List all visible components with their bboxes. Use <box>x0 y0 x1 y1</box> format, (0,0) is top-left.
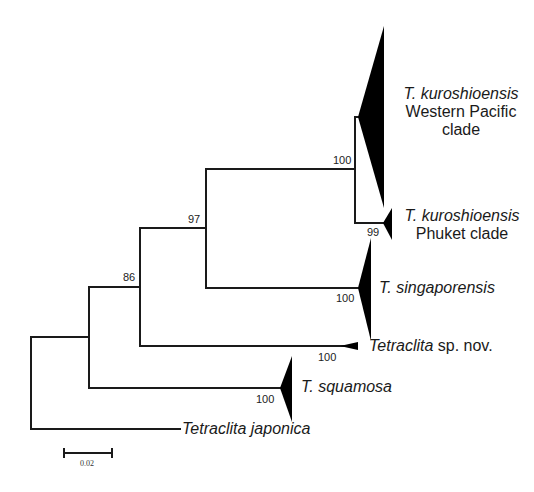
taxon-subtitle: Western Pacific <box>393 103 529 121</box>
taxon-label-singaporensis: T. singaporensis <box>379 279 495 297</box>
taxon-species: sp. nov. <box>433 337 492 354</box>
taxon-label-japonica: Tetraclita japonica <box>182 420 310 438</box>
taxon-subtitle: clade <box>393 121 529 139</box>
taxon-label-wp: T. kuroshioensis Western Pacific clade <box>393 85 529 139</box>
clade-singaporensis-triangle <box>358 238 371 341</box>
branch-node-a <box>89 287 281 388</box>
taxon-name: T. kuroshioensis <box>396 207 528 225</box>
phylogenetic-tree <box>0 0 534 492</box>
support-value-spnov: 100 <box>318 351 336 363</box>
support-value-97: 97 <box>188 213 200 225</box>
support-value-squamosa: 100 <box>256 393 274 405</box>
scale-bar <box>64 449 112 457</box>
taxon-label-phuket: T. kuroshioensis Phuket clade <box>396 207 528 243</box>
taxon-subtitle: Phuket clade <box>396 225 528 243</box>
taxon-label-squamosa: T. squamosa <box>301 378 392 396</box>
clade-phuket-triangle <box>383 208 392 240</box>
support-value-86: 86 <box>123 271 135 283</box>
clade-wp-triangle <box>358 26 384 208</box>
taxon-name: T. kuroshioensis <box>393 85 529 103</box>
scale-bar-label: 0.02 <box>80 459 94 468</box>
branch-root <box>31 337 180 429</box>
clade-squamosa-triangle <box>280 356 292 422</box>
taxon-genus: Tetraclita <box>369 337 433 354</box>
support-value-kuroshio: 100 <box>333 154 351 166</box>
branch-node97 <box>206 169 360 288</box>
clade-spnov-triangle <box>340 342 358 350</box>
support-value-phuket: 99 <box>367 226 379 238</box>
support-value-singaporensis: 100 <box>336 292 354 304</box>
taxon-label-spnov: Tetraclita sp. nov. <box>369 337 493 355</box>
